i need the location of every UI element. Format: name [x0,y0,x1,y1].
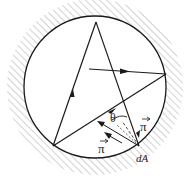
pi-vector-label-left: π [98,141,105,156]
area-element-label: dA [136,152,149,164]
pi-vector-label-right: π [140,119,147,134]
diagram-canvas: θ π π dA [0,0,186,178]
theta-label: θ [110,111,116,125]
cavity-wall-hatching [0,0,186,178]
cavity-diagram: θ π π dA [0,0,186,178]
